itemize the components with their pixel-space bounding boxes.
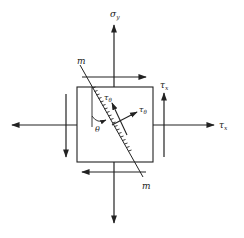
sigma-theta-arrow [112, 112, 137, 125]
tau-theta-arrow [112, 103, 127, 135]
theta-arc [92, 116, 106, 121]
stress-element-square [77, 87, 153, 162]
plane-m-bottom-label: m [142, 181, 151, 191]
sigma-theta-label: τθ [139, 105, 147, 115]
tau-theta-label: τθ [104, 93, 112, 103]
sigma-y-label: σy [110, 9, 120, 21]
theta-label: θ [95, 125, 100, 134]
stress-element-diagram: σy τx τx m m θ τθ τθ [0, 0, 244, 238]
inclined-plane-line [80, 65, 143, 177]
tau-x-right-label: τx [219, 120, 228, 131]
plane-hatching [93, 87, 132, 151]
tau-x-top-label: τx [160, 80, 169, 91]
plane-m-top-label: m [77, 56, 86, 66]
